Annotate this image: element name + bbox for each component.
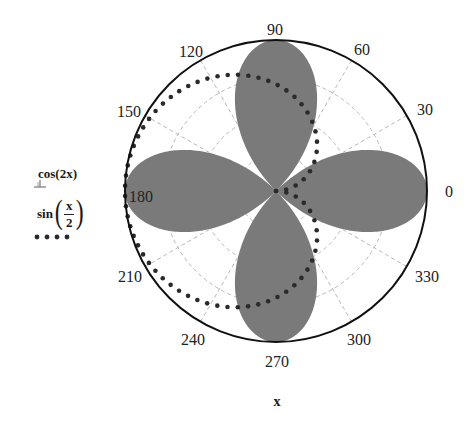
curve-dot: [186, 84, 191, 89]
curve-dot: [215, 74, 220, 79]
curve-dot: [153, 269, 158, 274]
curve-dot: [141, 252, 146, 257]
curve-dot: [275, 295, 280, 300]
angle-tick-label-210: 210: [118, 268, 142, 286]
curve-dot: [314, 150, 319, 155]
curve-dot: [312, 218, 317, 223]
curve-dot: [310, 258, 315, 263]
curve-dot: [299, 276, 304, 281]
angle-tick-label-240: 240: [181, 331, 205, 349]
angle-tick-label-150: 150: [117, 103, 141, 121]
legend-cos2x-fill-swatch-icon: [33, 180, 47, 188]
curve-dot: [266, 79, 271, 84]
curve-dot: [313, 129, 318, 134]
curve-dot: [160, 276, 165, 281]
curve-dot: [169, 95, 174, 100]
angle-tick-label-90: 90: [267, 21, 283, 39]
curve-dot: [147, 117, 152, 122]
legend-dotted-line-swatch-icon: [33, 233, 75, 241]
curve-dot: [141, 125, 146, 130]
curve-dot: [205, 301, 210, 306]
curve-dot: [246, 73, 251, 78]
curve-dot: [177, 89, 182, 94]
curve-dot: [195, 298, 200, 303]
curve-dot: [274, 189, 279, 194]
curve-dot: [302, 201, 307, 206]
curve-dot: [312, 160, 317, 165]
curve-dot: [293, 194, 298, 199]
angle-tick-label-120: 120: [179, 43, 203, 61]
curve-dot: [308, 169, 313, 174]
curve-dot: [305, 267, 310, 272]
curve-dot: [186, 294, 191, 299]
curve-dot: [308, 209, 313, 214]
curve-dot: [246, 304, 251, 309]
curve-dot: [161, 101, 166, 106]
curve-dot: [195, 80, 200, 85]
curve-dot: [153, 109, 158, 114]
angle-tick-label-270: 270: [265, 353, 289, 371]
curve-dot: [284, 289, 289, 294]
curve-dot: [284, 190, 289, 195]
curve-dot: [205, 76, 210, 81]
curve-dot: [315, 238, 320, 243]
curve-dot: [293, 183, 298, 188]
curve-dot: [266, 299, 271, 304]
angle-tick-label-330: 330: [415, 268, 439, 286]
curve-dot: [168, 283, 173, 288]
angle-tick-label-30: 30: [417, 101, 433, 119]
curve-dot: [215, 303, 220, 308]
curve-dot: [292, 95, 297, 100]
curve-dot: [275, 83, 280, 88]
curve-dot: [256, 302, 261, 307]
legend-fraction-denominator: 2: [66, 216, 73, 230]
legend-sin-half-x-label: sin ( x 2 ): [37, 196, 86, 232]
curve-dot: [315, 139, 320, 144]
curve-dot: [284, 88, 289, 93]
curve-dot: [225, 305, 230, 310]
curve-dot: [147, 261, 152, 266]
legend-paren-open: (: [55, 195, 63, 229]
angle-tick-label-300: 300: [347, 331, 371, 349]
legend-fraction: x 2: [64, 199, 74, 229]
curve-dot: [236, 73, 241, 78]
curve-dot: [299, 102, 304, 107]
legend-sin-func: sin: [37, 206, 53, 222]
curve-dot: [314, 228, 319, 233]
curve-dot: [301, 177, 306, 182]
legend-fraction-numerator: x: [66, 199, 73, 213]
curve-dot: [310, 119, 315, 124]
curve-dot: [177, 288, 182, 293]
curve-dot: [236, 305, 241, 310]
angle-tick-label-60: 60: [354, 41, 370, 59]
curve-dot: [313, 248, 318, 253]
angle-tick-label-0: 0: [445, 183, 453, 201]
curve-dot: [256, 75, 261, 80]
curve-dot: [292, 283, 297, 288]
legend-paren-close: ): [76, 195, 84, 229]
curve-dot: [305, 110, 310, 115]
angle-tick-label-180: 180: [129, 188, 153, 206]
x-axis-label: x: [274, 394, 281, 410]
curve-dot: [225, 73, 230, 78]
